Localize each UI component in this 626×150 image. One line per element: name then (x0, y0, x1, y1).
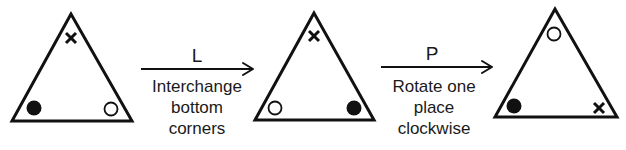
open-circle-marker (269, 102, 282, 115)
transformation-symbol: L (192, 45, 203, 66)
open-circle-marker (548, 28, 561, 41)
cross-marker (309, 31, 319, 41)
triangle-initial (12, 14, 132, 121)
cross-marker (594, 103, 604, 113)
triangle-after-p (495, 9, 617, 117)
transformation-symbol: P (426, 43, 439, 64)
filled-circle-marker (347, 101, 362, 116)
open-circle-marker (105, 103, 118, 116)
transformation-p: P Rotate one place clockwise (381, 43, 492, 138)
transformation-description-line: Rotate one (392, 77, 475, 96)
cross-marker (66, 33, 76, 43)
filled-circle-marker (27, 101, 42, 116)
transformation-description-line: Interchange (152, 77, 242, 96)
triangle-after-l (255, 13, 374, 120)
transformation-description-line: corners (169, 119, 226, 138)
transformation-l: L Interchange bottom corners (141, 45, 253, 138)
transformation-diagram: L Interchange bottom corners P Rotate on… (0, 0, 626, 150)
transformation-description-line: clockwise (398, 119, 471, 138)
transformation-description-line: bottom (171, 98, 223, 117)
filled-circle-marker (507, 99, 522, 114)
transformation-description-line: place (414, 98, 455, 117)
